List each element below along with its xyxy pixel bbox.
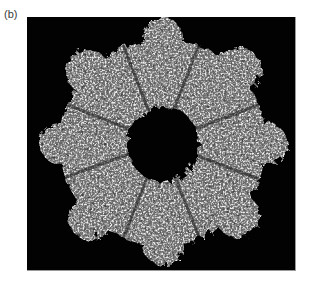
protein-ring-image: [27, 17, 296, 271]
panel-label: (b): [4, 9, 17, 20]
figure-image-panel: [27, 17, 296, 271]
ring-structure: [27, 17, 296, 271]
